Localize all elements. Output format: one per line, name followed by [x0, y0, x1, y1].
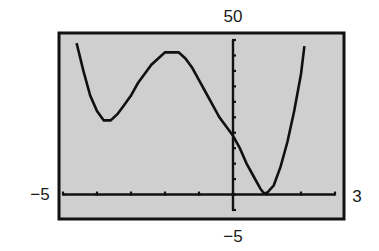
- plot-screen: [59, 33, 344, 219]
- xmax-label: 3: [352, 187, 361, 206]
- ymin-label: −5: [223, 227, 242, 246]
- graphing-calculator-plot: 50 −5 3 −5: [0, 0, 379, 251]
- xmin-label: −5: [30, 185, 49, 204]
- ymax-label: 50: [224, 7, 243, 26]
